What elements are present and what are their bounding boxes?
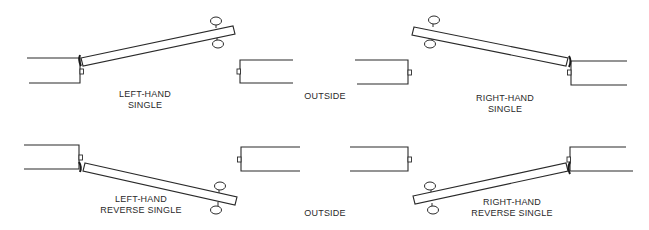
door-stop <box>80 69 84 74</box>
door-stop <box>568 70 572 75</box>
left-wall <box>24 145 79 169</box>
door-stop <box>408 70 412 75</box>
panel-label-line1: RIGHT-HAND <box>476 93 534 103</box>
panel-right-hand-reverse-single: RIGHT-HAND REVERSE SINGLE <box>350 147 633 218</box>
door-stop <box>408 157 412 162</box>
panel-label-line2: SINGLE <box>128 100 162 110</box>
left-wall <box>350 147 408 171</box>
panel-left-hand-single: LEFT-HAND SINGLE <box>27 17 293 110</box>
panel-left-hand-reverse-single: LEFT-HAND REVERSE SINGLE <box>24 145 300 215</box>
door-stop <box>237 69 241 74</box>
outside-label-top: OUTSIDE <box>304 91 345 101</box>
panel-label-line1: LEFT-HAND <box>115 194 167 204</box>
door-handing-diagram: LEFT-HAND SINGLE RIGHT-HAND SINGLE OUTSI… <box>0 0 649 230</box>
panel-label-line1: LEFT-HAND <box>119 89 171 99</box>
hinge-icon <box>79 55 81 66</box>
door-leaf <box>81 26 235 66</box>
panel-label-line2: SINGLE <box>488 104 522 114</box>
panel-label-line1: RIGHT-HAND <box>483 197 541 207</box>
outside-label-bottom: OUTSIDE <box>304 208 345 218</box>
left-wall <box>27 58 80 83</box>
panel-label-line2: REVERSE SINGLE <box>471 208 552 218</box>
panel-right-hand-single: RIGHT-HAND SINGLE <box>355 16 627 114</box>
door-stop <box>79 155 83 160</box>
hinge-icon <box>569 56 571 67</box>
door-leaf <box>412 27 568 66</box>
panel-label-line2: REVERSE SINGLE <box>100 205 181 215</box>
door-stop <box>567 157 571 162</box>
right-wall <box>571 61 627 85</box>
left-wall <box>355 60 408 84</box>
door-stop <box>238 157 242 162</box>
right-wall <box>240 60 293 83</box>
right-wall <box>570 147 633 171</box>
right-wall <box>241 147 300 171</box>
